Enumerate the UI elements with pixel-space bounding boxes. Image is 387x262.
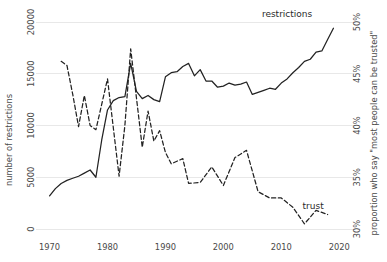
y-tick-15000: 15000 <box>26 61 36 87</box>
series-label-trust: trust <box>303 201 325 211</box>
gridlines <box>36 22 359 229</box>
series-inline-labels: restrictionstrust <box>262 9 324 212</box>
y2-tick-40pct: 40% <box>352 116 362 135</box>
x-tick-2010: 2010 <box>271 242 292 252</box>
y2-tick-50pct: 50% <box>352 13 362 32</box>
x-tick-1990: 1990 <box>155 242 176 252</box>
line-chart: 197019801990200020102020 050001000015000… <box>0 0 387 262</box>
series-line-restrictions <box>50 28 334 196</box>
y-axis-right-tick-labels: 30%35%40%45%50% <box>352 13 362 239</box>
x-tick-1970: 1970 <box>39 242 60 252</box>
x-tick-1980: 1980 <box>97 242 118 252</box>
y-tick-0: 0 <box>26 226 36 231</box>
x-tick-2020: 2020 <box>329 242 350 252</box>
y-axis-left-title: number of restrictions <box>4 94 14 186</box>
y2-tick-30pct: 30% <box>352 220 362 239</box>
y-axis-right-title: proportion who say "most people can be t… <box>369 30 379 235</box>
chart-container: 197019801990200020102020 050001000015000… <box>0 0 387 262</box>
y-axis-left-tick-labels: 05000100001500020000 <box>26 9 36 232</box>
y2-tick-35pct: 35% <box>352 168 362 187</box>
y-tick-20000: 20000 <box>26 9 36 35</box>
y-tick-5000: 5000 <box>26 167 36 188</box>
y2-tick-45pct: 45% <box>352 64 362 83</box>
series-label-restrictions: restrictions <box>262 9 313 19</box>
x-tick-2000: 2000 <box>213 242 234 252</box>
series-paths <box>50 28 334 224</box>
y-tick-10000: 10000 <box>26 112 36 138</box>
x-axis-tick-labels: 197019801990200020102020 <box>39 242 350 252</box>
